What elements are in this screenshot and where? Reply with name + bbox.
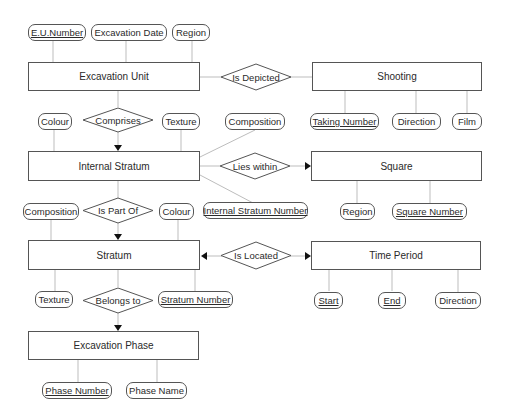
attribute-label: End — [384, 295, 401, 306]
attribute-is-composition: Composition — [225, 113, 285, 130]
attribute-stratum-texture: Texture — [35, 291, 73, 308]
relationship-is-located: Is Located — [220, 241, 292, 270]
attribute-label: Film — [458, 116, 476, 127]
relationship-label: Belongs to — [96, 295, 141, 306]
relationship-label: Is Depicted — [232, 72, 280, 83]
attribute-label: Phase Number — [45, 385, 108, 396]
attribute-square-region: Region — [340, 203, 375, 220]
attribute-label: Start — [318, 295, 338, 306]
relationship-is-depicted: Is Depicted — [220, 63, 292, 91]
attribute-label: Region — [342, 206, 372, 217]
attribute-label: Internal Stratum Number — [204, 205, 308, 216]
attribute-label: Phase Name — [129, 385, 184, 396]
attribute-label: E.U.Number — [31, 27, 83, 38]
attribute-film: Film — [452, 113, 482, 130]
entity-label: Stratum — [96, 250, 131, 261]
attribute-eu-region: Region — [172, 24, 210, 41]
attribute-is-texture: Texture — [162, 113, 200, 130]
entity-label: Time Period — [369, 250, 423, 261]
attribute-end: End — [378, 292, 406, 309]
entity-square: Square — [311, 151, 482, 181]
attribute-label: Square Number — [396, 206, 463, 217]
attribute-shooting-direction: Direction — [392, 113, 441, 130]
entity-label: Square — [380, 161, 412, 172]
relationship-lies-within: Lies within — [219, 152, 291, 180]
attribute-label: Taking Number — [313, 116, 377, 127]
attribute-label: Region — [176, 27, 206, 38]
attribute-phase-number: Phase Number — [42, 382, 112, 399]
relationship-comprises: Comprises — [82, 107, 154, 133]
entity-excavation-unit: Excavation Unit — [28, 62, 200, 91]
attribute-label: Colour — [41, 116, 69, 127]
relationship-is-part-of: Is Part Of — [82, 197, 154, 224]
attribute-tp-direction: Direction — [435, 292, 481, 309]
attribute-label: Colour — [163, 206, 191, 217]
entity-internal-stratum: Internal Stratum — [28, 151, 200, 181]
entity-label: Excavation Phase — [73, 340, 153, 351]
attribute-stratum-composition: Composition — [23, 203, 79, 220]
relationship-label: Lies within — [233, 161, 277, 172]
relationship-label: Is Located — [234, 250, 278, 261]
attribute-stratum-colour: Colour — [159, 203, 194, 220]
attribute-label: Excavation Date — [94, 27, 163, 38]
attribute-is-colour: Colour — [38, 113, 72, 130]
attribute-label: Direction — [398, 116, 436, 127]
attribute-label: Composition — [25, 206, 78, 217]
attribute-label: Composition — [229, 116, 282, 127]
relationship-label: Is Part Of — [98, 205, 138, 216]
attribute-excavation-date: Excavation Date — [91, 24, 167, 41]
attribute-label: Stratum Number — [161, 294, 231, 305]
attribute-eu-number: E.U.Number — [28, 24, 86, 41]
entity-stratum: Stratum — [28, 240, 200, 270]
arrow-to-stratum-side — [201, 252, 207, 260]
entity-excavation-phase: Excavation Phase — [28, 331, 199, 360]
relationship-label: Comprises — [95, 115, 140, 126]
attribute-start: Start — [314, 292, 343, 309]
entity-time-period: Time Period — [311, 241, 481, 270]
attribute-square-number: Square Number — [392, 203, 467, 220]
attribute-taking-number: Taking Number — [310, 113, 379, 130]
attribute-stratum-number: Stratum Number — [158, 291, 233, 308]
relationship-belongs-to: Belongs to — [82, 287, 154, 314]
attribute-label: Direction — [439, 295, 477, 306]
attribute-label: Texture — [165, 116, 196, 127]
entity-label: Internal Stratum — [78, 161, 149, 172]
entity-label: Shooting — [377, 71, 416, 82]
entity-label: Excavation Unit — [79, 71, 148, 82]
attribute-label: Texture — [38, 294, 69, 305]
entity-shooting: Shooting — [312, 62, 482, 91]
attribute-phase-name: Phase Name — [126, 382, 187, 399]
attribute-internal-stratum-number: Internal Stratum Number — [203, 202, 308, 219]
